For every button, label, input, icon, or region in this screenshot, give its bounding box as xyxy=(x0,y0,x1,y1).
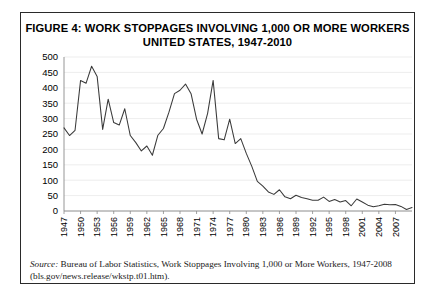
figure-title-line-1: FIGURE 4: WORK STOPPAGES INVOLVING 1,000… xyxy=(21,21,414,35)
x-tick-label: 1998 xyxy=(341,217,351,237)
x-tick-label: 1995 xyxy=(324,217,334,237)
x-tick-label: 1980 xyxy=(241,217,251,237)
y-tick-label: 200 xyxy=(42,144,58,155)
x-axis-tick-labels: 1947195019531956195919621965196819711974… xyxy=(59,217,400,237)
x-tick-label: 1956 xyxy=(109,217,119,237)
x-tick-label: 1983 xyxy=(258,217,268,237)
y-tick-label: 500 xyxy=(42,51,58,62)
line-chart: 050100150200250300350400450500 194719501… xyxy=(21,51,416,246)
x-tick-label: 1992 xyxy=(308,217,318,237)
x-tick-label: 1965 xyxy=(159,217,169,237)
y-tick-label: 300 xyxy=(42,113,58,124)
chart-svg: 050100150200250300350400450500 194719501… xyxy=(21,51,416,246)
y-tick-label: 100 xyxy=(42,175,58,186)
y-axis-tick-labels: 050100150200250300350400450500 xyxy=(42,51,58,216)
x-tick-label: 2004 xyxy=(374,217,384,237)
y-tick-label: 0 xyxy=(53,205,58,216)
y-tick-label: 150 xyxy=(42,159,58,170)
x-tick-label: 1989 xyxy=(291,217,301,237)
x-tick-label: 2007 xyxy=(391,217,401,237)
x-tick-label: 1950 xyxy=(76,217,86,237)
x-tick-label: 1968 xyxy=(175,217,185,237)
x-tick-label: 1962 xyxy=(142,217,152,237)
figure-title-line-2: UNITED STATES, 1947-2010 xyxy=(21,35,414,49)
y-tick-label: 350 xyxy=(42,98,58,109)
axis-lines xyxy=(64,57,412,214)
x-tick-label: 1971 xyxy=(192,217,202,237)
x-tick-label: 1953 xyxy=(92,217,102,237)
source-label: Source: xyxy=(30,259,58,269)
x-tick-label: 1974 xyxy=(208,217,218,237)
x-tick-label: 1959 xyxy=(125,217,135,237)
x-tick-label: 1986 xyxy=(275,217,285,237)
y-tick-label: 450 xyxy=(42,67,58,78)
x-tick-label: 2001 xyxy=(357,217,367,237)
y-tick-label: 400 xyxy=(42,82,58,93)
figure-title: FIGURE 4: WORK STOPPAGES INVOLVING 1,000… xyxy=(21,21,414,49)
source-note: Source: Bureau of Labor Statistics, Work… xyxy=(30,259,402,282)
x-tick-label: 1947 xyxy=(59,217,69,237)
x-tick-label: 1977 xyxy=(225,217,235,237)
gridlines xyxy=(64,57,412,211)
figure-container: FIGURE 4: WORK STOPPAGES INVOLVING 1,000… xyxy=(20,12,415,284)
y-tick-label: 250 xyxy=(42,128,58,139)
source-text: Bureau of Labor Statistics, Work Stoppag… xyxy=(30,259,392,281)
y-tick-label: 50 xyxy=(47,190,58,201)
